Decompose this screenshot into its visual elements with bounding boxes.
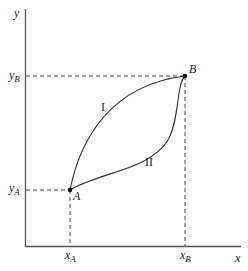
point-B: [183, 74, 188, 79]
path-II-label: II: [145, 155, 153, 169]
path-diagram: A B I II y x yB yA xA xB: [0, 0, 248, 271]
x-tick-B: xB: [179, 248, 191, 264]
point-B-label: B: [189, 62, 197, 76]
point-A-label: A: [72, 189, 81, 203]
path-II-curve: [70, 76, 185, 190]
path-I-curve: [70, 76, 185, 190]
x-axis-label: x: [234, 251, 241, 265]
y-tick-A: yA: [8, 181, 20, 197]
x-tick-A: xA: [64, 248, 76, 264]
path-I-label: I: [101, 100, 105, 114]
y-axis-label: y: [13, 6, 20, 20]
y-tick-B: yB: [8, 68, 20, 84]
point-A: [68, 188, 73, 193]
